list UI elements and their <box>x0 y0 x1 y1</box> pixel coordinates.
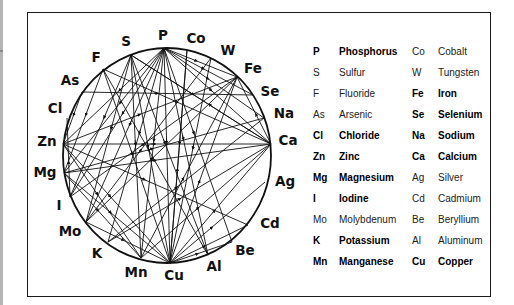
legend-element-name: Sodium <box>438 130 475 141</box>
legend-element-name: Manganese <box>339 256 393 267</box>
node-label-mg: Mg <box>33 164 56 180</box>
node-label-p: P <box>158 27 168 43</box>
legend-element-name: Cobalt <box>438 46 467 57</box>
legend-symbol: K <box>313 235 320 246</box>
interaction-line-mg-na <box>64 118 264 173</box>
arrowhead-icon <box>182 135 183 139</box>
interaction-line-w-cu <box>170 58 211 263</box>
legend-element-name: Fluoride <box>339 88 375 99</box>
arrowhead-icon <box>123 111 125 114</box>
interaction-line-p-al <box>164 48 208 255</box>
arrowhead-icon <box>181 178 183 182</box>
node-label-k: K <box>92 245 103 261</box>
legend-element-name: Silver <box>438 172 463 183</box>
interaction-line-cu-ca <box>170 144 271 263</box>
mineral-interaction-wheel: PCoWFeSeNaCaAgCdBeAlCuMnKMoIMgZnClAsFS <box>0 0 514 305</box>
legend-symbol: Al <box>412 235 421 246</box>
legend-element-name: Tungsten <box>438 67 479 78</box>
node-label-i: I <box>56 197 61 213</box>
interaction-line-zn-fe <box>63 77 237 144</box>
arrowhead-icon <box>256 115 257 116</box>
arrowhead-icon <box>193 144 194 148</box>
legend-symbol: I <box>313 193 316 204</box>
arrowhead-icon <box>108 194 110 196</box>
legend-symbol: P <box>313 46 320 57</box>
node-label-cl: Cl <box>48 100 63 116</box>
arrowhead-icon <box>139 129 140 133</box>
legend-symbol: Be <box>412 214 424 225</box>
legend-element-name: Aluminum <box>438 235 482 246</box>
arrowhead-icon <box>195 60 196 61</box>
arrowhead-icon <box>198 181 199 185</box>
node-label-w: W <box>221 42 236 58</box>
legend-element-name: Potassium <box>339 235 390 246</box>
legend-symbol: Mn <box>313 256 327 267</box>
arrowhead-icon <box>212 211 214 213</box>
legend-symbol: Cl <box>313 130 323 141</box>
legend-element-name: Selenium <box>438 109 482 120</box>
legend-element-name: Calcium <box>438 151 477 162</box>
legend-element-name: Beryllium <box>438 214 479 225</box>
legend-element-name: Magnesium <box>339 172 394 183</box>
legend-element-name: Iodine <box>339 193 368 204</box>
legend-symbol: Zn <box>313 151 325 162</box>
node-label-cd: Cd <box>260 215 280 231</box>
arrowhead-icon <box>140 144 143 146</box>
legend-element-name: Arsenic <box>339 109 372 120</box>
arrowhead-icon <box>193 129 194 133</box>
node-label-na: Na <box>274 105 294 121</box>
legend-element-name: Sulfur <box>339 67 365 78</box>
node-label-f: F <box>91 49 100 65</box>
legend-symbol: Ag <box>412 172 424 183</box>
arrowhead-icon <box>163 139 165 143</box>
arrowhead-icon <box>209 88 211 90</box>
legend-element-name: Molybdenum <box>339 214 396 225</box>
arrowhead-icon <box>130 121 132 124</box>
legend-symbol: Cu <box>412 256 425 267</box>
legend-symbol: As <box>313 109 325 120</box>
arrowhead-icon <box>136 115 139 116</box>
arrowhead-icon <box>96 192 98 194</box>
legend-symbol: Ca <box>412 151 425 162</box>
interaction-line-s-al <box>131 55 208 255</box>
legend-symbol: Mo <box>313 214 327 225</box>
node-label-mn: Mn <box>124 264 147 280</box>
legend-symbol: Na <box>412 130 425 141</box>
legend-element-name: Iron <box>438 88 457 99</box>
arrowhead-icon <box>151 160 155 161</box>
node-label-as: As <box>61 72 79 88</box>
interaction-line-zn-cu <box>63 144 170 263</box>
legend-element-name: Copper <box>438 256 473 267</box>
legend-symbol: Co <box>412 46 425 57</box>
legend-symbol: F <box>313 88 319 99</box>
interaction-lines <box>63 48 271 263</box>
interaction-line-mn-ca <box>141 144 271 258</box>
legend-element-name: Cadmium <box>438 193 481 204</box>
node-label-ag: Ag <box>275 173 295 189</box>
legend-element-name: Chloride <box>339 130 380 141</box>
arrowhead-icon <box>121 239 123 240</box>
arrowhead-icon <box>104 115 105 118</box>
legend-element-name: Phosphorus <box>339 46 397 57</box>
node-label-fe: Fe <box>244 60 262 76</box>
interaction-line-mo-fe <box>86 77 237 222</box>
legend-symbol: W <box>412 67 421 78</box>
interaction-line-p-cu <box>164 48 170 263</box>
node-label-cu: Cu <box>164 267 184 283</box>
node-label-mo: Mo <box>59 223 82 239</box>
arrowhead-icon <box>209 105 212 107</box>
legend-symbol: Mg <box>313 172 327 183</box>
node-label-co: Co <box>186 30 205 46</box>
node-label-be: Be <box>235 242 254 258</box>
legend-symbol: Cd <box>412 193 425 204</box>
node-label-se: Se <box>261 83 280 99</box>
legend-symbol: S <box>313 67 320 78</box>
arrowhead-icon <box>86 113 87 115</box>
node-label-s: S <box>121 33 131 49</box>
legend-symbol: Fe <box>412 88 424 99</box>
arrowhead-icon <box>210 227 212 229</box>
node-label-zn: Zn <box>37 133 56 149</box>
node-label-al: Al <box>206 258 221 274</box>
arrowhead-icon <box>96 209 98 211</box>
interaction-line-as-zn <box>63 92 82 144</box>
